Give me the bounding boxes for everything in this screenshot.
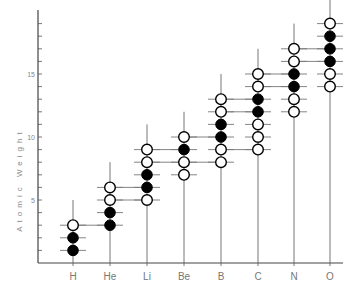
- open-circle-marker: [179, 132, 190, 143]
- open-circle-marker: [289, 44, 300, 55]
- open-circle-marker: [253, 119, 264, 130]
- open-circle-marker: [142, 195, 153, 206]
- x-tick-label: C: [254, 271, 261, 282]
- filled-circle-marker: [289, 69, 300, 80]
- y-axis-label: Atomic Weight: [15, 128, 24, 231]
- open-circle-marker: [216, 157, 227, 168]
- open-circle-marker: [253, 69, 264, 80]
- filled-circle-marker: [325, 56, 336, 67]
- open-circle-marker: [325, 81, 336, 92]
- filled-circle-marker: [216, 132, 227, 143]
- open-circle-marker: [216, 144, 227, 155]
- open-circle-marker: [142, 157, 153, 168]
- filled-circle-marker: [325, 31, 336, 42]
- filled-circle-marker: [289, 81, 300, 92]
- open-circle-marker: [105, 195, 116, 206]
- filled-circle-marker: [142, 170, 153, 181]
- open-circle-marker: [289, 56, 300, 67]
- filled-circle-marker: [105, 220, 116, 231]
- filled-circle-marker: [253, 107, 264, 118]
- open-circle-marker: [105, 182, 116, 193]
- open-circle-marker: [253, 132, 264, 143]
- open-circle-marker: [216, 107, 227, 118]
- y-tick-label: 5: [31, 197, 35, 204]
- open-circle-marker: [142, 144, 153, 155]
- atomic-weight-chart: 51015HHeLiBeBCNO Atomic Weight: [0, 0, 356, 288]
- x-tick-label: H: [69, 271, 76, 282]
- y-tick-label: 15: [27, 71, 35, 78]
- open-circle-marker: [253, 144, 264, 155]
- x-tick-label: O: [326, 271, 334, 282]
- open-circle-marker: [289, 107, 300, 118]
- open-circle-marker: [179, 157, 190, 168]
- filled-circle-marker: [253, 94, 264, 105]
- open-circle-marker: [179, 170, 190, 181]
- open-circle-marker: [325, 69, 336, 80]
- x-tick-label: Be: [178, 271, 191, 282]
- open-circle-marker: [253, 81, 264, 92]
- open-circle-marker: [325, 18, 336, 29]
- x-tick-label: N: [290, 271, 297, 282]
- filled-circle-marker: [216, 119, 227, 130]
- filled-circle-marker: [68, 233, 79, 244]
- filled-circle-marker: [179, 144, 190, 155]
- filled-circle-marker: [142, 182, 153, 193]
- filled-circle-marker: [325, 44, 336, 55]
- open-circle-marker: [68, 220, 79, 231]
- open-circle-marker: [289, 94, 300, 105]
- y-tick-label: 10: [27, 134, 35, 141]
- filled-circle-marker: [68, 245, 79, 256]
- filled-circle-marker: [105, 207, 116, 218]
- x-tick-label: He: [104, 271, 117, 282]
- open-circle-marker: [216, 94, 227, 105]
- plot-area: [60, 0, 343, 263]
- x-tick-label: Li: [143, 271, 151, 282]
- x-tick-label: B: [218, 271, 225, 282]
